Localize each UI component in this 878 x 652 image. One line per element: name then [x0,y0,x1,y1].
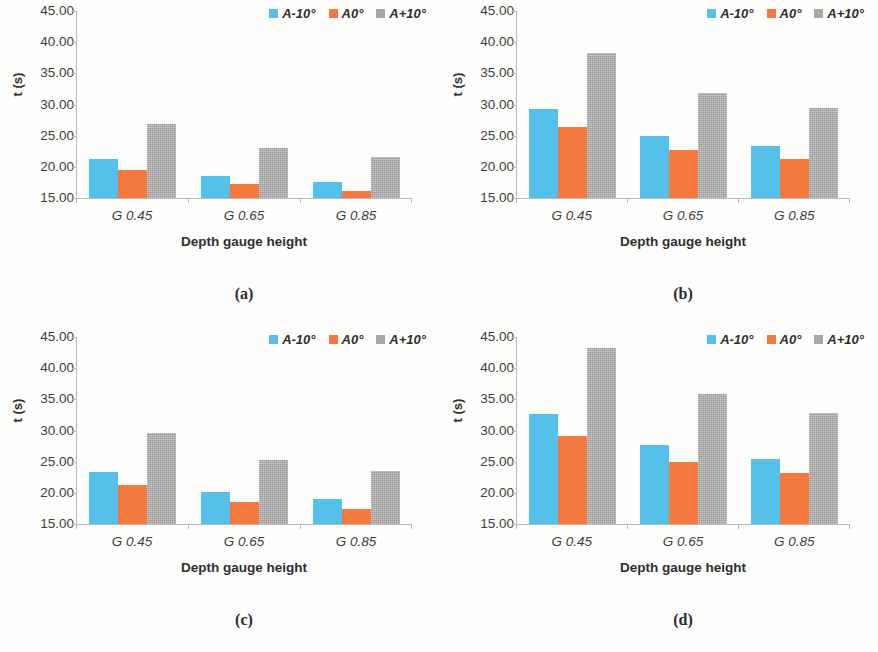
y-tick-label: 20.00 [40,160,74,174]
bar-A0-G0.45 [118,170,147,198]
legend-swatch-icon [707,335,716,344]
x-tick-label: G 0.65 [627,534,738,549]
bar-A+10-G0.85 [809,413,838,524]
legend-swatch-icon [269,335,278,344]
bar-A+10-G0.65 [698,93,727,198]
y-axis-ticks: 15.0020.0025.0030.0035.0040.0045.00 [18,0,74,210]
chart-panel-b: t (s)15.0020.0025.0030.0035.0040.0045.00… [440,0,878,326]
chart-area: t (s)15.0020.0025.0030.0035.0040.0045.00… [0,326,440,588]
x-tick-mark [849,524,850,529]
x-tick-mark [76,198,77,203]
legend-item: A-10° [707,6,753,21]
bar-A-10-G0.65 [201,176,230,198]
legend-label: A-10° [720,332,753,347]
panel-caption: (c) [76,611,412,629]
bar-A0-G0.45 [118,485,147,524]
bar-A+10-G0.85 [371,471,400,524]
plot-area [76,11,412,199]
bar-A+10-G0.85 [809,108,838,198]
bar-A0-G0.65 [669,462,698,524]
x-tick-mark [738,198,739,203]
bar-group [517,11,628,198]
x-tick-mark [849,198,850,203]
y-tick-label: 30.00 [480,98,514,112]
x-tick-label: G 0.85 [300,534,412,549]
y-tick-label: 35.00 [40,393,74,407]
legend-label: A+10° [389,6,426,21]
bar-A+10-G0.65 [259,460,288,524]
x-axis-tick-labels: G 0.45G 0.65G 0.85 [76,534,412,549]
x-tick-label: G 0.85 [739,534,850,549]
panel-caption: (b) [516,285,850,303]
bar-group [77,11,189,198]
y-axis-ticks: 15.0020.0025.0030.0035.0040.0045.00 [458,0,514,210]
y-tick-label: 25.00 [40,455,74,469]
plot-area [516,337,850,525]
bar-A0-G0.65 [669,150,698,198]
legend-item: A0° [329,332,364,347]
bar-group [189,11,301,198]
legend-label: A+10° [827,6,864,21]
legend-item: A+10° [814,6,864,21]
bar-group [189,337,301,524]
chart-panel-c: t (s)15.0020.0025.0030.0035.0040.0045.00… [0,326,440,652]
bar-group [300,11,412,198]
bar-A-10-G0.45 [529,109,558,198]
bar-A-10-G0.45 [529,414,558,524]
x-tick-label: G 0.85 [300,208,412,223]
x-axis-tick-labels: G 0.45G 0.65G 0.85 [76,208,412,223]
chart-area: t (s)15.0020.0025.0030.0035.0040.0045.00… [0,0,440,262]
x-axis-tick-labels: G 0.45G 0.65G 0.85 [516,208,850,223]
x-tick-mark [516,524,517,529]
bar-groups [77,337,412,524]
legend-swatch-icon [376,9,385,18]
y-tick-label: 35.00 [40,67,74,81]
legend-swatch-icon [814,335,823,344]
legend-item: A0° [329,6,364,21]
legend: A-10°A0°A+10° [269,332,426,347]
legend-swatch-icon [329,9,338,18]
legend-label: A-10° [282,332,315,347]
y-tick-label: 15.00 [40,517,74,531]
x-tick-mark [516,198,517,203]
y-tick-label: 35.00 [480,67,514,81]
x-axis-label: Depth gauge height [76,560,412,575]
x-tick-mark [76,524,77,529]
bar-A+10-G0.65 [259,148,288,198]
x-tick-mark [188,198,189,203]
bar-group [628,11,739,198]
y-axis-ticks: 15.0020.0025.0030.0035.0040.0045.00 [458,326,514,536]
bar-group [739,337,850,524]
y-tick-label: 15.00 [480,191,514,205]
x-tick-mark [738,524,739,529]
bar-A-10-G0.45 [89,472,118,524]
bar-A0-G0.45 [558,127,587,198]
y-tick-label: 40.00 [480,35,514,49]
legend-item: A-10° [707,332,753,347]
bar-A0-G0.85 [342,509,371,524]
legend-label: A-10° [720,6,753,21]
y-tick-label: 25.00 [480,129,514,143]
bar-A+10-G0.45 [147,433,176,524]
bar-A+10-G0.45 [587,53,616,198]
legend: A-10°A0°A+10° [707,6,864,21]
bar-A0-G0.85 [342,191,371,198]
y-tick-label: 45.00 [40,4,74,18]
figure-panel-grid: t (s)15.0020.0025.0030.0035.0040.0045.00… [0,0,878,652]
legend-label: A-10° [282,6,315,21]
legend-label: A+10° [389,332,426,347]
legend-item: A0° [767,332,802,347]
bar-A-10-G0.65 [201,492,230,524]
y-tick-label: 20.00 [480,160,514,174]
x-tick-mark [188,524,189,529]
legend-item: A-10° [269,332,315,347]
x-tick-label: G 0.65 [188,534,300,549]
legend-swatch-icon [329,335,338,344]
bar-group [739,11,850,198]
legend-item: A+10° [814,332,864,347]
bar-group [517,337,628,524]
bar-A+10-G0.85 [371,157,400,198]
bar-A-10-G0.85 [751,459,780,524]
y-tick-label: 20.00 [40,486,74,500]
x-tick-mark [300,524,301,529]
